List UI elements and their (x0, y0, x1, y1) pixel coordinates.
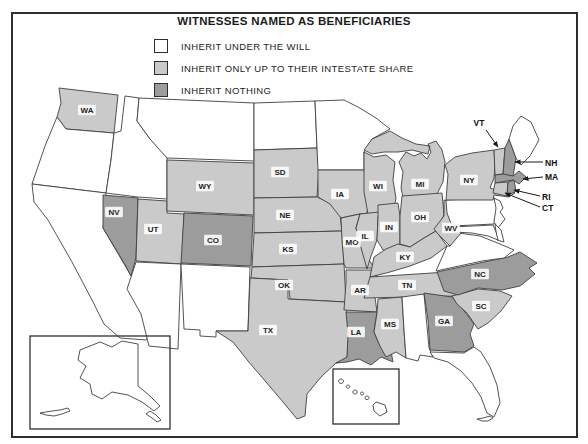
svg-text:TN: TN (402, 281, 413, 290)
state-label-SD: SD (271, 167, 289, 178)
state-label-MI: MI (411, 179, 429, 190)
state-label-NE: NE (276, 210, 294, 221)
callout-label-MA: MA (545, 172, 558, 182)
state-label-WA: WA (78, 105, 96, 116)
state-AK (40, 341, 161, 422)
state-CT (493, 182, 508, 196)
state-NM (181, 264, 250, 337)
svg-text:KY: KY (399, 253, 411, 262)
state-label-LA: LA (347, 327, 365, 338)
svg-text:WA: WA (81, 106, 94, 115)
state-label-UT: UT (144, 224, 162, 235)
svg-text:WI: WI (373, 182, 383, 191)
state-label-WI: WI (369, 181, 387, 192)
figure: WITNESSES NAMED AS BENEFICIARIES INHERIT… (0, 0, 588, 444)
state-label-OK: OK (275, 280, 293, 291)
callout-label-RI: RI (542, 192, 551, 202)
state-PA (446, 198, 498, 226)
state-label-NV: NV (105, 207, 123, 218)
state-label-GA: GA (435, 316, 453, 327)
state-label-AR: AR (351, 285, 369, 296)
callout-label-CT: CT (542, 203, 554, 213)
state-label-KS: KS (279, 244, 297, 255)
state-label-TX: TX (259, 325, 277, 336)
callout-label-NH: NH (545, 158, 557, 168)
svg-text:SD: SD (274, 168, 285, 177)
svg-text:SC: SC (475, 302, 486, 311)
state-HI (339, 379, 387, 416)
state-label-KY: KY (396, 252, 414, 263)
state-label-CO: CO (204, 235, 222, 246)
state-FL (430, 347, 500, 421)
state-KS (252, 231, 344, 267)
state-label-MS: MS (381, 319, 399, 330)
svg-text:WV: WV (445, 224, 459, 233)
svg-text:IN: IN (385, 223, 393, 232)
state-NJ (494, 198, 505, 228)
svg-text:NE: NE (279, 211, 291, 220)
state-label-IA: IA (331, 189, 349, 200)
svg-text:NV: NV (108, 208, 120, 217)
svg-text:UT: UT (148, 225, 159, 234)
svg-text:GA: GA (438, 317, 450, 326)
state-label-TN: TN (398, 280, 416, 291)
callout-label-VT: VT (474, 118, 486, 128)
svg-text:NY: NY (463, 176, 475, 185)
callout-arrow-VT (486, 130, 498, 147)
state-label-NY: NY (460, 175, 478, 186)
svg-text:MI: MI (416, 180, 425, 189)
state-label-NC: NC (471, 269, 489, 280)
svg-text:KS: KS (282, 245, 294, 254)
state-label-IL: IL (356, 231, 374, 242)
svg-text:CO: CO (207, 236, 219, 245)
state-label-WY: WY (196, 181, 214, 192)
state-label-WV: WV (442, 223, 460, 234)
svg-text:LA: LA (351, 328, 362, 337)
svg-text:IA: IA (336, 190, 344, 199)
svg-text:IL: IL (361, 232, 368, 241)
state-label-OH: OH (411, 212, 429, 223)
svg-text:OK: OK (278, 281, 290, 290)
us-map: WANVUTWYCOSDNEKSOKTXIAMOARLAWIMIILINOHKY… (0, 0, 588, 444)
svg-text:MS: MS (384, 320, 397, 329)
svg-text:NC: NC (474, 270, 486, 279)
svg-text:AR: AR (354, 286, 366, 295)
svg-text:TX: TX (263, 326, 274, 335)
state-label-SC: SC (472, 301, 490, 312)
callout-arrow-RI (514, 190, 540, 196)
state-ND (254, 101, 317, 150)
svg-text:WY: WY (199, 182, 213, 191)
state-label-IN: IN (380, 222, 398, 233)
svg-text:OH: OH (414, 213, 426, 222)
